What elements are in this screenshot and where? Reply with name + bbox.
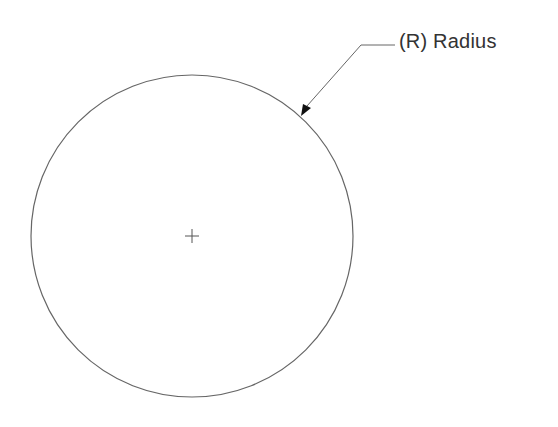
center-mark-icon [185, 229, 199, 243]
radius-diagram [0, 0, 558, 427]
leader-line [307, 45, 395, 106]
radius-label: (R) Radius [399, 30, 497, 53]
arrowhead-icon [301, 104, 311, 116]
